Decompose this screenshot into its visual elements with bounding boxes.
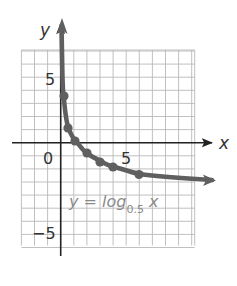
data-point (70, 136, 79, 145)
data-point (63, 123, 72, 132)
equation-base: 0.5 (126, 203, 144, 216)
origin-label: 0 (43, 149, 53, 168)
x-axis-label: x (218, 133, 230, 153)
equation-variable: x (148, 192, 159, 211)
x-tick-5-label: 5 (121, 149, 131, 168)
equation-main: y = log (68, 192, 126, 211)
data-point (108, 162, 117, 171)
data-point (134, 170, 143, 179)
log-graph: x y 0 5 5 −5 y = log0.5x (0, 0, 237, 286)
data-point (95, 157, 104, 166)
y-axis-label: y (39, 20, 51, 40)
y-tick-neg5-label: −5 (32, 224, 56, 243)
y-tick-5-label: 5 (45, 70, 55, 89)
data-point (59, 91, 68, 100)
data-point (82, 148, 91, 157)
